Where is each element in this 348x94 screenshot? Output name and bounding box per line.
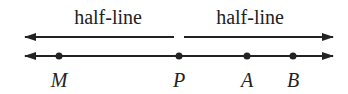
point-m-dot (56, 53, 63, 60)
point-m-label: M (50, 69, 69, 91)
point-b-dot (290, 53, 297, 60)
point-p-dot (176, 53, 183, 60)
half-line-diagram: half-line half-line M P A B (0, 0, 348, 94)
point-a-label: A (239, 69, 254, 91)
point-b-label: B (287, 69, 299, 91)
point-p-label: P (172, 69, 185, 91)
point-a-dot (244, 53, 251, 60)
right-half-line-label: half-line (216, 6, 284, 28)
left-half-line-label: half-line (74, 6, 142, 28)
